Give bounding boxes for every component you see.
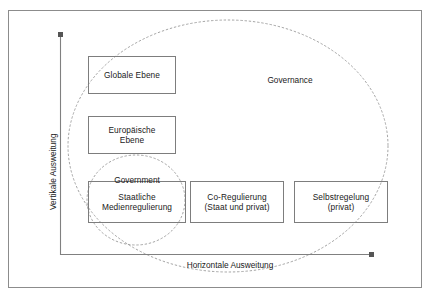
box-staatliche-medienregulierung[interactable]: Staatliche Medienregulierung — [88, 181, 186, 223]
governance-region-label: Governance — [245, 64, 335, 85]
box-selbstregelung-label: Selbstregelung (privat) — [313, 192, 370, 213]
diagram-vector-layer — [0, 0, 431, 297]
box-staatliche-medienregulierung-label: Staatliche Medienregulierung — [102, 192, 172, 213]
vertical-axis-label-text: Vertikale Ausweitung — [48, 133, 58, 210]
box-selbstregelung[interactable]: Selbstregelung (privat) — [294, 181, 388, 223]
box-co-regulierung[interactable]: Co-Regulierung (Staat und privat) — [190, 181, 284, 223]
vertical-axis-label: Vertikale Ausweitung — [48, 133, 58, 210]
diagram-canvas: Globale Ebene Europäische Ebene Staatlic… — [0, 0, 431, 297]
horizontal-axis-label-text: Horizontale Ausweitung — [187, 260, 274, 270]
box-europaeische-ebene[interactable]: Europäische Ebene — [88, 116, 176, 154]
government-region-label-text: Government — [114, 175, 160, 185]
governance-region-label-text: Governance — [267, 75, 312, 85]
box-globale-ebene[interactable]: Globale Ebene — [88, 56, 176, 94]
box-globale-ebene-label: Globale Ebene — [104, 70, 160, 81]
vertical-axis-arrowhead — [58, 32, 63, 37]
horizontal-axis-label: Horizontale Ausweitung — [150, 260, 310, 270]
government-region-label: Government — [92, 164, 182, 185]
box-co-regulierung-label: Co-Regulierung (Staat und privat) — [204, 192, 269, 213]
box-europaeische-ebene-label: Europäische Ebene — [108, 125, 155, 146]
horizontal-axis-arrowhead — [369, 252, 374, 257]
